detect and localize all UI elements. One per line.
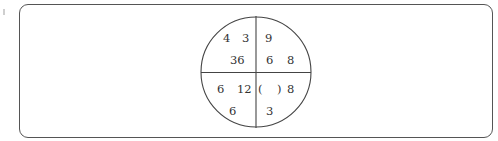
bl-number-a: 6	[217, 82, 224, 96]
tl-number-a: 4	[223, 31, 230, 45]
br-number-b: 8	[287, 82, 294, 96]
bl-number-c: 6	[229, 104, 236, 118]
tl-number-product: 36	[230, 53, 245, 67]
bl-number-b: 12	[237, 82, 252, 96]
tr-number-a: 9	[265, 31, 272, 45]
br-number-c: 3	[266, 104, 273, 118]
tl-number-b: 3	[242, 31, 249, 45]
br-answer-blank[interactable]: ( )	[258, 82, 282, 96]
number-circle-figure: 4 3 36 9 6 8 6 12 6 ( ) 8 3	[0, 0, 498, 141]
tr-number-b: 6	[266, 53, 273, 67]
tr-number-c: 8	[287, 53, 294, 67]
